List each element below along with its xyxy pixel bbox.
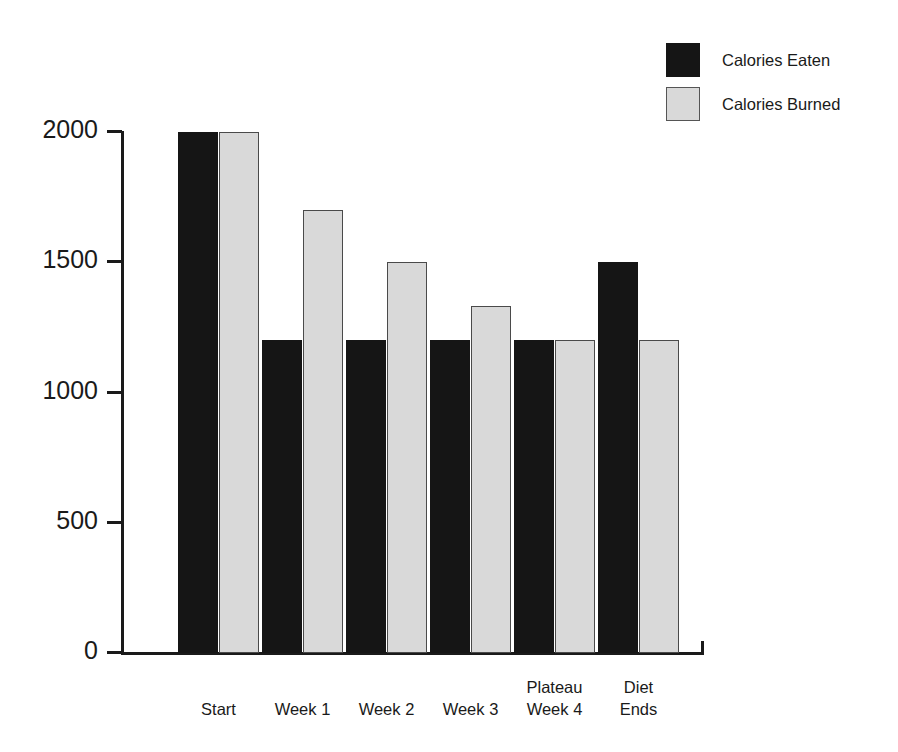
bar-burned-group-2 xyxy=(387,262,427,653)
bar-eaten-group-2 xyxy=(346,340,386,653)
plot-area: 0500100015002000 StartWeek 1Week 2Week 3… xyxy=(0,0,898,752)
x-axis-label-group-5: Diet Ends xyxy=(579,676,699,720)
bar-burned-group-1 xyxy=(303,210,343,653)
bar-eaten-group-0 xyxy=(178,132,218,653)
bars-layer xyxy=(0,0,898,655)
bar-burned-group-0 xyxy=(219,132,259,653)
bar-burned-group-3 xyxy=(471,306,511,653)
bar-burned-group-5 xyxy=(639,340,679,653)
bar-eaten-group-4 xyxy=(514,340,554,653)
calories-bar-chart-figure: Calories Eaten Calories Burned 050010001… xyxy=(0,0,898,752)
bar-eaten-group-1 xyxy=(262,340,302,653)
bar-eaten-group-3 xyxy=(430,340,470,653)
bar-burned-group-4 xyxy=(555,340,595,653)
bar-eaten-group-5 xyxy=(598,262,638,653)
